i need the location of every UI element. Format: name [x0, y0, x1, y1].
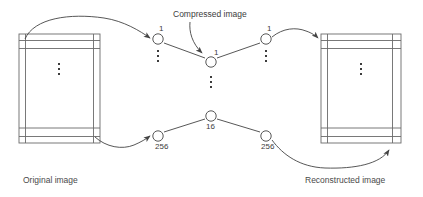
encoder-column-ellipsis-icon: [157, 50, 159, 65]
compressed-image-leader-arrow: [190, 22, 202, 53]
edge-encoder-top-to-bottleneck-top: [164, 43, 205, 58]
autoencoder-diagram: 1 256 1 16 1 256 Compressed image Origin…: [0, 0, 423, 197]
original-image-ellipsis-icon: [58, 63, 60, 78]
input-top-arrow: [25, 16, 150, 39]
original-image-block: [19, 34, 100, 143]
bottleneck-top-node: [206, 57, 216, 67]
original-image-caption: Original image: [23, 176, 78, 185]
decoder-top-node: [261, 34, 271, 44]
edge-encoder-bottom-to-bottleneck-bottom: [164, 119, 205, 132]
edge-bottleneck-top-to-decoder-top: [217, 43, 260, 58]
decoder-bottom-node-label: 256: [261, 143, 274, 151]
edge-bottleneck-bottom-to-decoder-bottom: [217, 119, 260, 132]
encoder-top-node: [153, 34, 163, 44]
compressed-image-annotation: Compressed image: [173, 10, 247, 19]
output-top-arrow: [272, 29, 318, 38]
reconstructed-image-caption: Reconstructed image: [305, 176, 385, 185]
encoder-bottom-node: [153, 131, 163, 141]
reconstructed-image-ellipsis-icon: [360, 63, 362, 78]
encoder-bottom-node-label: 256: [155, 143, 168, 151]
bottleneck-top-node-label: 1: [214, 49, 218, 57]
decoder-column-ellipsis-icon: [265, 50, 267, 65]
decoder-top-node-label: 1: [267, 25, 271, 33]
reconstructed-image-block: [321, 34, 401, 143]
encoder-top-node-label: 1: [159, 25, 163, 33]
bottleneck-column-ellipsis-icon: [210, 76, 212, 91]
bottleneck-bottom-node-label: 16: [206, 123, 215, 131]
output-bottom-arrow: [272, 140, 389, 168]
bottleneck-bottom-node: [206, 111, 216, 121]
input-bottom-arrow: [95, 136, 150, 147]
decoder-bottom-node: [261, 131, 271, 141]
diagram-canvas: [0, 0, 423, 197]
